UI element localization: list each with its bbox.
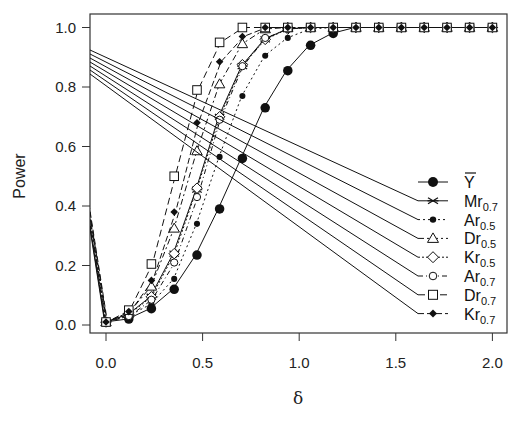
legend-label: Dr0.7	[464, 287, 496, 307]
markers-Dr0.5	[101, 22, 498, 326]
x-tick-label: 1.0	[289, 354, 310, 371]
x-tick-label: 1.5	[385, 354, 406, 371]
markers-Ar0.7	[102, 24, 496, 326]
filled-diamond-marker-icon	[170, 208, 178, 216]
legend-item-Dr0.7: Dr0.7	[418, 287, 496, 307]
filled-circle-large-marker-icon	[428, 177, 438, 187]
legend-leader-line	[90, 66, 418, 276]
filled-diamond-marker-icon	[216, 58, 224, 66]
y-tick-label: 0.8	[55, 78, 76, 95]
legend-label: Kr0.5	[464, 249, 495, 269]
y-tick-label: 0.2	[55, 257, 76, 274]
circle-marker-icon	[429, 272, 437, 280]
y-tick-label: 0.6	[55, 138, 76, 155]
legend-item-Ar0.5: Ar0.5	[418, 212, 495, 232]
filled-circle-large-marker-icon	[283, 66, 293, 76]
legend-label: Dr0.5	[464, 230, 496, 250]
square-marker-icon	[170, 172, 179, 181]
square-marker-icon	[193, 86, 202, 95]
filled-circle-small-marker-icon	[430, 216, 436, 222]
legend-label: Ar0.7	[464, 268, 495, 288]
circle-marker-icon	[171, 259, 178, 266]
markers-Ar0.5	[103, 24, 495, 325]
y-tick-label: 0.4	[55, 197, 76, 214]
square-marker-icon	[429, 290, 438, 299]
triangle-marker-icon	[192, 146, 202, 155]
filled-circle-small-marker-icon	[171, 276, 177, 282]
legend-item-Kr0.7: Kr0.7	[418, 306, 495, 326]
legend-label: Kr0.7	[464, 306, 495, 326]
x-axis-title: δ	[293, 388, 303, 408]
legend-item-Ȳ: Y	[418, 173, 476, 191]
circle-marker-icon	[193, 193, 200, 200]
y-tick-label: 1.0	[55, 19, 76, 36]
x-tick-label: 0.0	[96, 354, 117, 371]
filled-circle-large-marker-icon	[169, 285, 179, 295]
filled-circle-small-marker-icon	[285, 35, 291, 41]
legend-leader-line	[90, 58, 418, 238]
y-axis-title: Power	[11, 153, 28, 199]
square-marker-icon	[238, 23, 247, 32]
legend-leader-line	[90, 62, 418, 257]
filled-diamond-marker-icon	[429, 310, 437, 318]
markers-Kr0.5	[101, 22, 498, 327]
circle-marker-icon	[239, 63, 246, 70]
markers-Ȳ	[101, 23, 497, 327]
legend-leader-line	[90, 54, 418, 220]
x-tick-label: 2.0	[482, 354, 503, 371]
filled-diamond-marker-icon	[239, 33, 247, 41]
filled-circle-large-marker-icon	[260, 103, 270, 113]
plot-area	[82, 22, 498, 327]
triangle-marker-icon	[214, 79, 224, 88]
legend-item-Mr0.7: Mr0.7	[418, 193, 498, 213]
legend-label: Y	[464, 174, 475, 191]
triangle-marker-icon	[428, 233, 439, 243]
x-tick-label: 0.5	[192, 354, 213, 371]
filled-circle-large-marker-icon	[306, 41, 316, 51]
x-star-marker-icon	[428, 198, 439, 204]
filled-circle-large-marker-icon	[215, 204, 225, 214]
legend-leader-line	[90, 74, 418, 314]
square-marker-icon	[215, 38, 224, 47]
markers-Dr0.7	[102, 23, 497, 326]
circle-marker-icon	[148, 296, 155, 303]
legend-item-Kr0.5: Kr0.5	[418, 249, 495, 269]
legend-leader-line	[90, 70, 418, 295]
power-curve-chart: 0.00.20.40.60.81.00.00.51.01.52.0 YMr0.7…	[0, 0, 522, 424]
legend-item-Ar0.7: Ar0.7	[418, 268, 495, 288]
filled-circle-small-marker-icon	[239, 93, 245, 99]
markers-Mr0.7	[101, 25, 498, 325]
filled-circle-small-marker-icon	[194, 221, 200, 227]
legend-label: Ar0.5	[464, 212, 495, 232]
filled-circle-small-marker-icon	[262, 53, 268, 59]
filled-circle-large-marker-icon	[192, 250, 202, 260]
filled-diamond-marker-icon	[148, 277, 156, 285]
diamond-marker-icon	[428, 252, 439, 263]
diamond-marker-icon	[169, 248, 179, 258]
legend-item-Dr0.5: Dr0.5	[418, 230, 496, 250]
legend-leader-line	[90, 50, 418, 201]
y-tick-label: 0.0	[55, 316, 76, 333]
square-marker-icon	[147, 260, 156, 269]
legend-label: Mr0.7	[464, 193, 498, 213]
circle-marker-icon	[262, 34, 269, 41]
markers-Kr0.7	[102, 24, 496, 326]
